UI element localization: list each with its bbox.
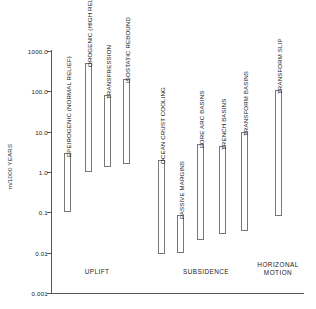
- range-bar: [85, 63, 92, 172]
- group-caption: UPLIFT: [62, 268, 132, 276]
- bar-label: TRENCH BASINS: [220, 98, 227, 149]
- y-tick-label: 1000.0: [28, 48, 48, 55]
- y-tick-label: 0.001: [32, 289, 48, 296]
- bar-label: FORE ARC BASINS: [198, 90, 205, 147]
- y-tick-label: 100.0: [32, 88, 48, 95]
- bar-label: ISOSTATIC REBOUND: [124, 17, 131, 83]
- bar-label: TRANSPRESSION: [105, 45, 112, 99]
- y-tick-label: 10.0: [35, 128, 48, 135]
- bar-label: TRANSFORM BASINS: [242, 71, 249, 136]
- range-bar: [158, 160, 165, 255]
- bar-label: OCEAN CRUST COOLING: [159, 87, 166, 164]
- range-bar: [275, 90, 282, 216]
- range-bar: [104, 95, 111, 167]
- range-bar: [64, 153, 71, 213]
- range-bar: [219, 146, 226, 235]
- y-tick-label: 0.01: [35, 249, 48, 256]
- y-tick-label: 0.1: [39, 209, 48, 216]
- bar-label: EPEIROGENIC (NORMAL RELIEF): [65, 56, 72, 157]
- group-caption: HORIZONAL MOTION: [248, 261, 308, 277]
- range-bar: [197, 144, 204, 240]
- range-bar: [241, 132, 248, 231]
- bar-label: TRANSFORM SLIP: [276, 38, 283, 94]
- y-tick-label: 1.0: [39, 168, 48, 175]
- bar-label: PASSIVE MARGINS: [178, 161, 185, 219]
- range-bar: [123, 79, 130, 164]
- y-axis-title: m/1000 YEARS: [6, 137, 13, 197]
- x-axis-line: [51, 293, 304, 294]
- rate-range-chart: m/1000 YEARS 1000.0100.010.01.00.10.010.…: [0, 0, 316, 309]
- range-bar: [177, 215, 184, 253]
- bar-label: OROGENIC (HIGH RELIEF): [86, 0, 93, 67]
- group-caption: SUBSIDENCE: [166, 268, 246, 276]
